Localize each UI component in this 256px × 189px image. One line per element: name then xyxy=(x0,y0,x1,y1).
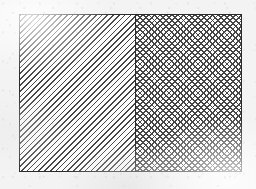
left-hatched-region xyxy=(20,15,135,171)
outer-rectangle xyxy=(19,14,242,172)
right-crosshatched-region xyxy=(136,15,241,171)
figure-canvas xyxy=(0,0,256,189)
